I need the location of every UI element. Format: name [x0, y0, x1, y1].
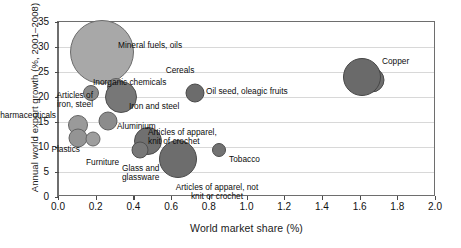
point-label: Copper: [382, 57, 409, 66]
x-axis-tick-label: 0.0: [38, 201, 78, 212]
x-axis-tick-label: 2.0: [415, 201, 455, 212]
x-axis-tick-label: 0.8: [189, 201, 229, 212]
point-label: Inorganic chemicals: [93, 78, 166, 87]
bubble-chart: Annual world export growth (%, 2001–2008…: [0, 0, 461, 248]
y-axis-tick-label: 25: [0, 66, 49, 77]
x-axis-tick: [171, 196, 172, 200]
x-axis-tick-label: 1.0: [227, 201, 267, 212]
plot-area: [58, 21, 435, 196]
point-label: Furniture: [86, 158, 119, 167]
point-label: Tobacco: [229, 155, 260, 164]
x-axis-tick: [360, 196, 361, 200]
y-axis-tick-label: 35: [0, 16, 49, 27]
bubble[interactable]: [343, 58, 381, 96]
point-label: Mineral fuels, oils: [118, 41, 182, 50]
y-axis-tick: [55, 22, 59, 23]
x-axis-tick: [284, 196, 285, 200]
x-axis-tick-label: 0.4: [113, 201, 153, 212]
bubble[interactable]: [85, 132, 100, 147]
x-axis-tick-label: 1.4: [302, 201, 342, 212]
y-axis-tick: [55, 172, 59, 173]
point-label: Articles of apparel, not knit or crochet: [176, 183, 259, 202]
point-label: Glass and glassware: [122, 164, 159, 183]
y-axis-tick-label: 10: [0, 141, 49, 152]
gridline: [59, 172, 434, 173]
x-axis-tick-label: 1.2: [264, 201, 304, 212]
y-axis-tick: [55, 72, 59, 73]
point-label: Oil seed, oleagic fruits: [206, 87, 288, 96]
gridline: [59, 147, 434, 148]
y-axis-tick: [55, 122, 59, 123]
point-label: Plastics: [51, 145, 80, 154]
x-axis-tick: [322, 196, 323, 200]
x-axis-tick-label: 1.6: [340, 201, 380, 212]
y-axis-tick: [55, 47, 59, 48]
x-axis-tick: [133, 196, 134, 200]
y-axis-tick-label: 0: [0, 191, 49, 202]
x-axis-tick-label: 0.2: [76, 201, 116, 212]
x-axis-tick: [435, 196, 436, 200]
x-axis-tick: [397, 196, 398, 200]
bubble[interactable]: [185, 84, 204, 103]
point-label: Articles of apparel, knit of crochet: [148, 128, 217, 147]
y-axis-tick-label: 20: [0, 91, 49, 102]
bubble[interactable]: [132, 141, 149, 158]
bubble[interactable]: [99, 111, 118, 130]
point-label: Iron and steel: [129, 102, 179, 111]
x-axis-title: World market share (%): [58, 222, 435, 234]
x-axis-tick: [58, 196, 59, 200]
x-axis-tick: [96, 196, 97, 200]
bubble[interactable]: [70, 20, 134, 84]
point-label: Pharmaceuticals: [0, 111, 56, 120]
y-axis-tick-label: 5: [0, 166, 49, 177]
y-axis-tick-label: 30: [0, 41, 49, 52]
point-label: Articles of iron, steel: [57, 91, 93, 110]
x-axis-tick-label: 0.6: [151, 201, 191, 212]
point-label: Cereals: [166, 66, 195, 75]
x-axis-tick-label: 1.8: [377, 201, 417, 212]
